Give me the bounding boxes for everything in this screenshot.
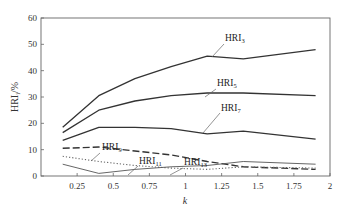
- leader-line: [203, 113, 220, 133]
- series-label-hri7: HRI7: [221, 103, 241, 114]
- leader-line: [128, 166, 138, 175]
- series-label-hri11: HRI11: [139, 156, 162, 167]
- series-line-hri3: [63, 50, 316, 128]
- x-tick-label: 0.75: [142, 181, 158, 191]
- axes: 01020304050600.250.50.7511.251.51.752: [28, 13, 332, 191]
- x-tick-label: 1.5: [252, 181, 264, 191]
- series-lines: [63, 50, 316, 174]
- y-tick-label: 0: [33, 171, 38, 181]
- y-tick-label: 20: [28, 118, 38, 128]
- series-label-hri9: HRI9: [102, 142, 122, 153]
- leader-line: [212, 44, 224, 57]
- x-tick-label: 1.75: [286, 181, 302, 191]
- x-tick-label: 1: [183, 181, 188, 191]
- y-tick-label: 60: [28, 13, 38, 23]
- plot-border: [41, 18, 330, 176]
- y-axis-label: HRIi/%: [9, 82, 21, 112]
- line-chart: 01020304050600.250.50.7511.251.51.752 HR…: [0, 0, 343, 211]
- plot-frame: [41, 18, 330, 176]
- series-labels: HRI3HRI5HRI7HRI9HRI11HRI13: [91, 33, 245, 175]
- series-label-hri13: HRI13: [184, 157, 207, 168]
- x-tick-label: 0.25: [69, 181, 85, 191]
- series-label-hri3: HRI3: [225, 33, 245, 44]
- x-tick-label: 1.25: [214, 181, 230, 191]
- y-tick-label: 30: [28, 92, 38, 102]
- x-tick-label: 2: [328, 181, 333, 191]
- x-axis-label: k: [183, 195, 188, 206]
- leader-line: [170, 168, 183, 175]
- leader-line: [91, 153, 100, 161]
- y-tick-label: 10: [28, 145, 38, 155]
- x-tick-label: 0.5: [108, 181, 120, 191]
- y-tick-label: 40: [28, 66, 38, 76]
- y-tick-label: 50: [28, 39, 38, 49]
- series-label-hri5: HRI5: [217, 78, 237, 89]
- series-line-hri7: [63, 127, 316, 140]
